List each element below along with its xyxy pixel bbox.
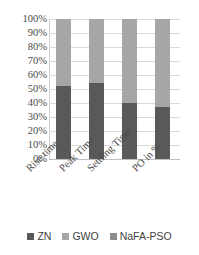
x-axis-category-labels: Rise time Peak Time Settling Time PO in … bbox=[0, 160, 199, 218]
stacked-bar-chart: 100% 90% 80% 70% 60% 50% 40% 30% 20% 10%… bbox=[0, 0, 199, 255]
legend-label: ZN bbox=[37, 231, 51, 242]
bar-segment bbox=[155, 19, 170, 107]
bar-segment bbox=[56, 86, 71, 159]
chart-legend: ZN GWO NaFA-PSO bbox=[0, 228, 199, 244]
y-axis-tick-label: 60% bbox=[1, 70, 47, 81]
y-axis-tick-label: 70% bbox=[1, 56, 47, 67]
y-axis-tick-label: 30% bbox=[1, 112, 47, 123]
legend-label: GWO bbox=[72, 231, 98, 242]
bar-segment bbox=[56, 19, 71, 86]
legend-swatch-icon bbox=[62, 233, 69, 240]
bar-segment bbox=[122, 19, 137, 103]
y-axis-tick-label: 50% bbox=[1, 84, 47, 95]
y-axis-tick-label: 80% bbox=[1, 42, 47, 53]
legend-label: NaFA-PSO bbox=[120, 231, 172, 242]
y-axis-tick-label: 20% bbox=[1, 126, 47, 137]
y-axis-tick-labels: 100% 90% 80% 70% 60% 50% 40% 30% 20% 10%… bbox=[0, 19, 47, 159]
legend-swatch-icon bbox=[27, 233, 34, 240]
legend-item-gwo[interactable]: GWO bbox=[62, 231, 98, 242]
bar-segment bbox=[89, 19, 104, 83]
legend-swatch-icon bbox=[110, 233, 117, 240]
legend-item-zn[interactable]: ZN bbox=[27, 231, 51, 242]
y-axis-tick-label: 40% bbox=[1, 98, 47, 109]
y-axis-tick-label: 90% bbox=[1, 28, 47, 39]
y-axis-tick-label: 100% bbox=[1, 14, 47, 25]
legend-item-nafa-pso[interactable]: NaFA-PSO bbox=[110, 231, 172, 242]
